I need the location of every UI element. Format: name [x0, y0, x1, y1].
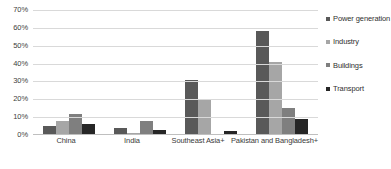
bar — [56, 121, 69, 135]
gridline — [33, 81, 318, 82]
legend-swatch-icon — [326, 87, 330, 91]
x-tick-label: China — [33, 137, 99, 153]
legend-swatch-icon — [326, 63, 330, 67]
y-tick-label: 30% — [13, 78, 28, 86]
plot-area — [33, 10, 318, 135]
bar — [185, 80, 198, 135]
legend-label: Industry — [333, 37, 359, 46]
gridline — [33, 99, 318, 100]
x-axis: ChinaIndiaSoutheast Asia+Pakistan and Ba… — [33, 137, 318, 153]
y-axis: 70%60%50%40%30%20%10%0% — [0, 0, 30, 169]
gridline — [33, 64, 318, 65]
axis-baseline — [33, 134, 318, 135]
y-tick-label: 40% — [13, 60, 28, 68]
legend-label: Buildings — [333, 61, 363, 70]
legend-label: Transport — [333, 84, 364, 93]
gridline — [33, 46, 318, 47]
y-tick-label: 60% — [13, 24, 28, 32]
bar — [282, 108, 295, 135]
gridline — [33, 117, 318, 118]
y-tick-label: 20% — [13, 96, 28, 104]
gridline — [33, 28, 318, 29]
chart-legend: Power generationIndustryBuildingsTranspo… — [326, 14, 391, 108]
legend-item[interactable]: Power generation — [326, 14, 391, 23]
y-tick-label: 70% — [13, 6, 28, 14]
bar-chart: 70%60%50%40%30%20%10%0% ChinaIndiaSouthe… — [0, 0, 391, 169]
legend-swatch-icon — [326, 40, 330, 44]
x-tick-label: Pakistan and Bangladesh+ — [231, 137, 318, 153]
x-tick-label: Southeast Asia+ — [165, 137, 231, 153]
legend-item[interactable]: Buildings — [326, 61, 391, 70]
legend-item[interactable]: Transport — [326, 84, 391, 93]
x-tick-label: India — [99, 137, 165, 153]
bar — [256, 31, 269, 135]
y-tick-label: 10% — [13, 113, 28, 121]
gridline — [33, 10, 318, 11]
legend-label: Power generation — [333, 14, 390, 23]
bar — [295, 119, 308, 135]
legend-item[interactable]: Industry — [326, 37, 391, 46]
y-tick-label: 0% — [17, 131, 28, 139]
y-tick-label: 50% — [13, 42, 28, 50]
legend-swatch-icon — [326, 17, 330, 21]
bar — [140, 121, 153, 135]
